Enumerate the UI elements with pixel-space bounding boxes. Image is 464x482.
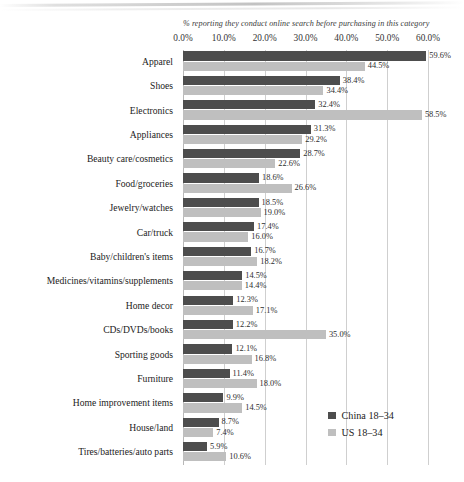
bar-value-us: 18.2% <box>257 257 282 266</box>
category-label: Beauty care/cosmetics <box>0 153 178 164</box>
bar-row: 31.3%29.2% <box>183 123 464 147</box>
bar-value-china: 59.6% <box>426 51 451 60</box>
category-label: Apparel <box>0 56 178 67</box>
bar-value-china: 38.4% <box>340 76 365 85</box>
chart-legend: China 18–34US 18–34 <box>328 408 438 442</box>
bar-us <box>183 452 226 461</box>
bar-value-us: 16.0% <box>248 232 273 241</box>
bar-value-china: 18.5% <box>259 198 284 207</box>
bar-value-china: 12.3% <box>233 295 258 304</box>
category-axis-labels: ApparelShoesElectronicsAppliancesBeauty … <box>0 50 178 465</box>
bar-us <box>183 306 253 315</box>
category-label: Jewelry/watches <box>0 202 178 213</box>
bar-us <box>183 403 242 412</box>
bar-us <box>183 257 257 266</box>
bar-china <box>183 271 242 280</box>
legend-item: China 18–34 <box>328 408 438 423</box>
bar-value-us: 34.4% <box>323 86 348 95</box>
bar-us <box>183 428 213 437</box>
bar-us <box>183 135 302 144</box>
bar-value-us: 17.1% <box>253 306 278 315</box>
bar-row: 12.1%16.8% <box>183 343 464 367</box>
category-label: Tires/batteries/auto parts <box>0 446 178 457</box>
category-label: Car/truck <box>0 227 178 238</box>
bar-value-china: 32.4% <box>315 100 340 109</box>
bar-china <box>183 442 207 451</box>
bar-value-china: 8.7% <box>219 417 239 426</box>
x-axis-tick-labels: 0.0%10.0%20.0%30.0%40.0%50.0%60.0% <box>183 33 464 47</box>
bar-row: 38.4%34.4% <box>183 74 464 98</box>
bar-row: 5.9%10.6% <box>183 441 464 465</box>
bar-us <box>183 355 252 364</box>
bar-row: 32.4%58.5% <box>183 99 464 123</box>
bar-value-us: 19.0% <box>261 208 286 217</box>
category-label: Food/groceries <box>0 178 178 189</box>
legend-swatch-icon <box>328 429 336 437</box>
category-label: Appliances <box>0 129 178 140</box>
bar-us <box>183 208 261 217</box>
bar-row: 11.4%18.0% <box>183 367 464 391</box>
bar-china <box>183 418 219 427</box>
category-label: Home decor <box>0 300 178 311</box>
x-axis-tick-60: 60.0% <box>416 33 440 43</box>
legend-swatch-icon <box>328 412 336 420</box>
bar-value-china: 14.5% <box>242 271 267 280</box>
x-axis-tick-20: 20.0% <box>253 33 277 43</box>
bar-china <box>183 393 223 402</box>
x-axis-tick-40: 40.0% <box>334 33 358 43</box>
legend-label: US 18–34 <box>342 427 383 438</box>
bar-row: 17.4%16.0% <box>183 221 464 245</box>
category-label: House/land <box>0 422 178 433</box>
bar-value-us: 35.0% <box>326 330 351 339</box>
x-axis-tick-50: 50.0% <box>375 33 399 43</box>
bar-value-us: 22.6% <box>275 159 300 168</box>
bar-us <box>183 62 365 71</box>
bar-china <box>183 369 230 378</box>
bar-china <box>183 247 251 256</box>
bar-us <box>183 86 323 95</box>
bar-row: 12.2%35.0% <box>183 319 464 343</box>
chart-subtitle: % reporting they conduct online search b… <box>183 19 464 29</box>
bar-us <box>183 159 275 168</box>
bar-us <box>183 379 257 388</box>
bar-row: 14.5%14.4% <box>183 270 464 294</box>
bar-chart: % reporting they conduct online search b… <box>0 0 464 482</box>
bar-china <box>183 344 232 353</box>
bar-value-us: 14.4% <box>242 281 267 290</box>
bar-value-us: 10.6% <box>226 452 251 461</box>
bar-value-us: 7.4% <box>213 428 233 437</box>
x-axis-tick-30: 30.0% <box>293 33 317 43</box>
bar-row: 18.5%19.0% <box>183 196 464 220</box>
bar-value-china: 28.7% <box>300 149 325 158</box>
category-label: Shoes <box>0 80 178 91</box>
bar-value-us: 14.5% <box>242 403 267 412</box>
x-axis-tick-10: 10.0% <box>212 33 236 43</box>
bar-row: 16.7%18.2% <box>183 245 464 269</box>
legend-item: US 18–34 <box>328 425 438 440</box>
category-label: Home improvement items <box>0 397 178 408</box>
bar-value-china: 9.9% <box>223 393 243 402</box>
bar-china <box>183 320 233 329</box>
bar-china <box>183 222 254 231</box>
bar-us <box>183 281 242 290</box>
bar-us <box>183 232 248 241</box>
bar-value-china: 11.4% <box>230 369 254 378</box>
bar-value-china: 5.9% <box>207 442 227 451</box>
category-label: Furniture <box>0 373 178 384</box>
category-label: Electronics <box>0 105 178 116</box>
x-axis-tick-0: 0.0% <box>173 33 192 43</box>
bar-value-china: 31.3% <box>311 124 336 133</box>
bar-value-us: 44.5% <box>365 61 390 70</box>
scan-artifact-line-secondary <box>0 7 464 11</box>
bar-value-china: 18.6% <box>259 173 284 182</box>
bar-china <box>183 51 426 60</box>
scan-artifact-line <box>0 1 464 7</box>
bar-value-us: 58.5% <box>422 110 447 119</box>
bar-value-china: 12.1% <box>232 344 257 353</box>
bar-china <box>183 149 300 158</box>
category-label: Baby/children's items <box>0 251 178 262</box>
bar-us <box>183 184 292 193</box>
bar-row: 28.7%22.6% <box>183 148 464 172</box>
bar-us <box>183 110 422 119</box>
category-label: CDs/DVDs/books <box>0 324 178 335</box>
